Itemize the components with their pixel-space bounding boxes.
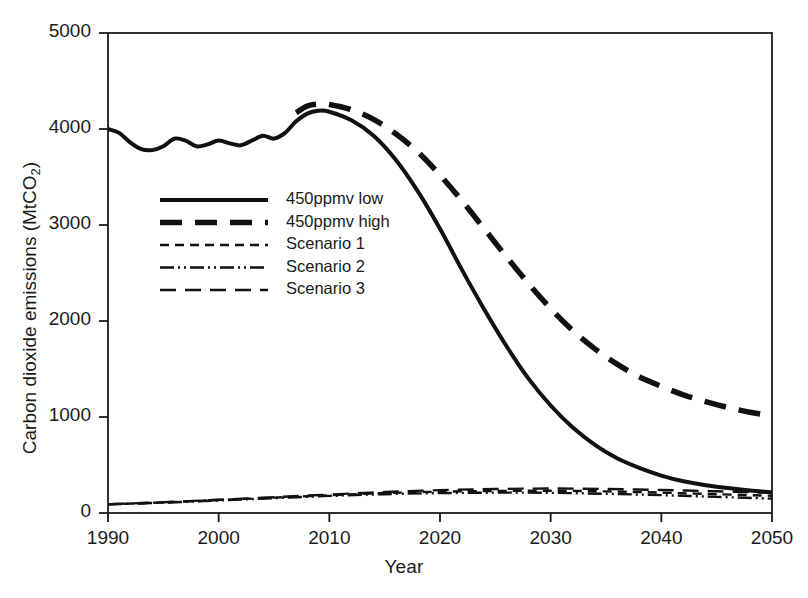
series-line [296,104,772,416]
y-tick-label: 3000 [0,212,91,234]
x-tick-label: 1990 [48,527,168,549]
series-line [108,110,772,492]
x-tick-label: 2040 [601,527,721,549]
y-tick-label: 2000 [0,308,91,330]
chart-plot-area [0,0,808,598]
legend-label: 450ppmv high [286,212,390,231]
x-tick-label: 2020 [380,527,500,549]
y-tick-label: 1000 [0,404,91,426]
legend-label: Scenario 2 [286,257,365,276]
chart-legend-swatches [160,200,268,290]
y-tick-label: 4000 [0,116,91,138]
x-axis-title: Year [0,556,808,578]
chart-axes [99,33,772,522]
series-line [108,493,772,505]
x-tick-label: 2050 [712,527,808,549]
legend-label: Scenario 3 [286,279,365,298]
chart-figure: 0100020003000400050001990200020102020203… [0,0,808,598]
x-tick-label: 2030 [491,527,611,549]
legend-label: 450ppmv low [286,189,383,208]
y-tick-label: 5000 [0,20,91,42]
chart-series [108,104,772,505]
x-tick-label: 2010 [269,527,389,549]
x-tick-label: 2000 [159,527,279,549]
y-tick-label: 0 [0,500,91,522]
legend-label: Scenario 1 [286,234,365,253]
